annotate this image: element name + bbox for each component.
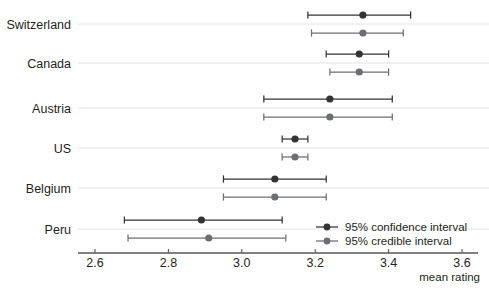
x-axis-tick-label: 2.6 [86,256,103,270]
interval-marker [223,175,326,182]
gridlines-group [78,24,489,229]
category-label: US [54,142,71,156]
category-label: Canada [27,57,71,71]
legend: 95% confidence interval95% credible inte… [316,221,467,247]
category-labels-group: SwitzerlandCanadaAustriaUSBelgiumPeru [6,18,71,237]
interval-series-group [124,11,410,241]
legend-label: 95% confidence interval [345,221,467,233]
x-axis-title: mean rating [419,271,480,283]
interval-marker [264,113,392,120]
x-axis-tick-label: 2.8 [160,256,177,270]
x-axis-group: 2.62.83.03.23.43.6mean rating [78,249,480,283]
interval-marker [282,153,308,160]
plot-area: 2.62.83.03.23.43.6mean rating Switzerlan… [0,0,489,298]
legend-label: 95% credible interval [345,235,452,247]
x-axis-tick-label: 3.4 [380,256,397,270]
interval-marker [326,50,388,57]
category-label: Belgium [26,182,71,196]
category-label: Peru [45,223,71,237]
forest-plot-chart: 2.62.83.03.23.43.6mean rating Switzerlan… [0,0,489,298]
legend-item[interactable]: 95% credible interval [316,235,452,247]
legend-item[interactable]: 95% confidence interval [316,221,467,233]
interval-marker [223,193,326,200]
x-axis-tick-label: 3.2 [307,256,324,270]
interval-marker [124,216,282,223]
interval-marker [312,29,404,36]
x-axis-tick-label: 3.0 [233,256,250,270]
category-label: Switzerland [6,18,71,32]
interval-marker [308,11,411,18]
interval-marker [128,234,286,241]
interval-marker [264,95,392,102]
x-axis-tick-label: 3.6 [453,256,470,270]
category-label: Austria [32,102,71,116]
interval-marker [282,135,308,142]
interval-marker [330,68,389,75]
